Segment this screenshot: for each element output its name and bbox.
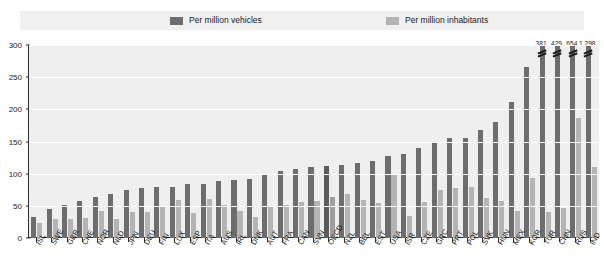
gridline [29, 45, 599, 46]
legend-label-inhabitants: Per million inhabitants [405, 16, 488, 25]
y-axis-tick-label: 100 [9, 169, 22, 178]
bar-per-million-vehicles[interactable] [308, 167, 313, 238]
legend-swatch-vehicles-icon [170, 17, 183, 25]
gridline [29, 142, 599, 143]
y-axis-tick-label: 150 [9, 137, 22, 146]
legend-item-per-million-inhabitants[interactable]: Per million inhabitants [386, 11, 488, 30]
bar-per-million-vehicles[interactable] [478, 130, 483, 238]
y-axis-tick-label: 50 [13, 201, 22, 210]
legend-label-vehicles: Per million vehicles [189, 16, 262, 25]
bar-per-million-vehicles[interactable] [124, 190, 129, 238]
plot-region [28, 45, 599, 238]
bar-per-million-vehicles[interactable] [416, 148, 421, 238]
y-axis: 050100150200250300 [0, 45, 28, 238]
x-axis-labels: ISLSWEGBRCHENORNLDJPNDEUFINLUXESPITAAUSI… [28, 242, 598, 269]
bar-per-million-vehicles[interactable] [201, 184, 206, 238]
y-axis-tick-label: 250 [9, 73, 22, 82]
legend-item-per-million-vehicles[interactable]: Per million vehicles [170, 11, 262, 30]
gridline [29, 174, 599, 175]
bar-per-million-vehicles[interactable] [463, 138, 468, 238]
bar-per-million-vehicles[interactable] [524, 67, 529, 238]
bar-per-million-inhabitants[interactable] [576, 118, 581, 238]
bar-per-million-inhabitants[interactable] [592, 167, 597, 238]
bar-per-million-vehicles[interactable] [216, 181, 221, 238]
legend-swatch-inhabitants-icon [386, 17, 399, 25]
y-axis-tick-label: 200 [9, 105, 22, 114]
bar-per-million-vehicles[interactable] [493, 122, 498, 238]
bar-per-million-vehicles[interactable] [231, 180, 236, 238]
bar-per-million-vehicles[interactable] [170, 187, 175, 238]
bar-per-million-vehicles[interactable] [47, 209, 52, 238]
bar-per-million-vehicles[interactable] [139, 188, 144, 238]
gridline [29, 77, 599, 78]
chart-area: 050100150200250300 3814296541 298 ISLSWE… [0, 40, 604, 269]
bar-per-million-vehicles[interactable] [185, 184, 190, 238]
bar-per-million-vehicles[interactable] [447, 138, 452, 238]
gridline [29, 109, 599, 110]
bar-per-million-vehicles[interactable] [247, 179, 252, 238]
gridline [29, 206, 599, 207]
y-axis-tick-label: 0 [18, 234, 22, 243]
bar-per-million-vehicles[interactable] [324, 166, 329, 238]
bar-per-million-vehicles[interactable] [293, 169, 298, 238]
y-axis-tick-label: 300 [9, 41, 22, 50]
bar-per-million-vehicles[interactable] [278, 171, 283, 238]
bar-per-million-vehicles[interactable] [31, 217, 36, 238]
bar-per-million-vehicles[interactable] [432, 143, 437, 238]
bar-per-million-vehicles[interactable] [385, 156, 390, 238]
bar-per-million-vehicles[interactable] [370, 161, 375, 238]
bar-per-million-vehicles[interactable] [509, 102, 514, 238]
chart-page: Per million vehicles Per million inhabit… [0, 0, 604, 269]
bar-per-million-vehicles[interactable] [401, 154, 406, 238]
chart-legend: Per million vehicles Per million inhabit… [20, 11, 584, 30]
